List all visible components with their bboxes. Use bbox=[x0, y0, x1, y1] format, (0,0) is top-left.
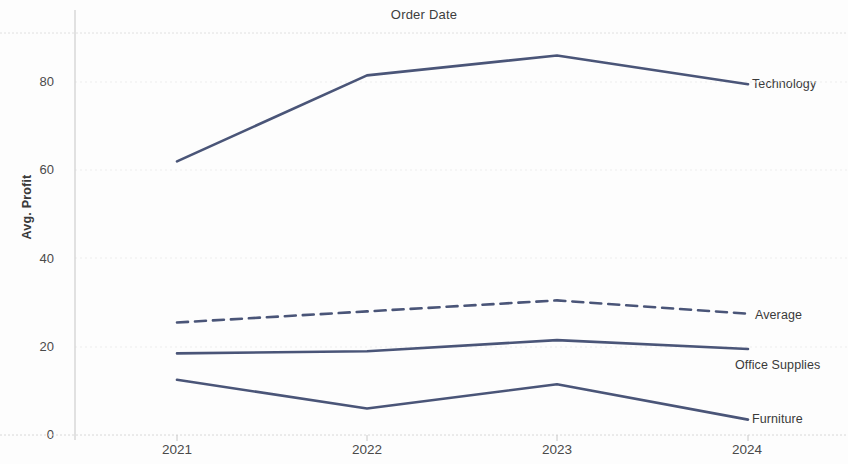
plot-area bbox=[0, 0, 848, 464]
gridlines bbox=[0, 33, 848, 435]
chart-container: Order Date Avg. Profit 0 20 40 60 80 202… bbox=[0, 0, 848, 464]
data-series-group bbox=[177, 56, 748, 420]
series-line-technology bbox=[177, 56, 748, 162]
series-line-office-supplies bbox=[177, 340, 748, 353]
series-line-average bbox=[177, 300, 748, 322]
x-axis-ticks bbox=[177, 435, 748, 441]
series-line-furniture bbox=[177, 380, 748, 420]
